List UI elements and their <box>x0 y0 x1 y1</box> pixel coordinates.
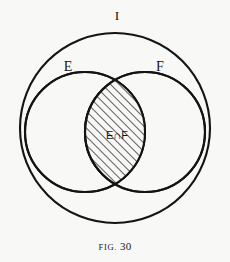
set-label-E: E <box>64 59 73 74</box>
universe-label-I: I <box>115 8 120 23</box>
venn-diagram: I E F E∩F <box>0 0 230 262</box>
caption-label: Fig. <box>98 242 117 252</box>
figure-container: I E F E∩F Fig.30 <box>0 0 230 262</box>
intersection-label-E-cap-F: E∩F <box>106 129 128 141</box>
set-label-F: F <box>156 59 164 74</box>
figure-caption: Fig.30 <box>0 240 230 252</box>
caption-number: 30 <box>120 240 131 252</box>
